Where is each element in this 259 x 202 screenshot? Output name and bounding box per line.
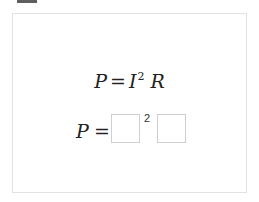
given-lhs: P: [94, 70, 107, 92]
given-formula: P=I2 R: [13, 71, 246, 91]
given-term1-base: I: [129, 70, 137, 92]
answer-blank-2-input[interactable]: [157, 114, 186, 143]
answer-equals: =: [94, 122, 110, 141]
question-panel: P=I2 R P = 2: [12, 13, 247, 193]
given-equals: =: [110, 70, 126, 92]
answer-blank-1-exponent: 2: [144, 113, 150, 124]
answer-blank-1-input[interactable]: [111, 114, 140, 143]
top-tab-edge: [17, 0, 37, 3]
answer-formula: P = 2: [13, 114, 246, 146]
answer-lhs: P: [76, 122, 89, 141]
given-term1-exponent: 2: [137, 70, 144, 83]
given-term2: R: [150, 70, 164, 92]
